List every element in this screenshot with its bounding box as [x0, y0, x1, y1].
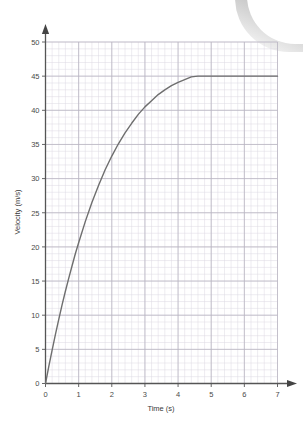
y-tick-label: 40 [31, 106, 39, 115]
y-axis-arrowhead [42, 24, 49, 34]
chart-page: 01234567 05101520253035404550 Time (s) V… [0, 0, 303, 431]
velocity-curve [46, 76, 278, 383]
axis-lines [42, 24, 297, 387]
y-tick-label: 5 [35, 345, 39, 354]
velocity-time-chart: 01234567 05101520253035404550 Time (s) V… [0, 0, 303, 431]
x-tick-label: 3 [143, 390, 147, 399]
y-tick-label: 0 [35, 379, 39, 388]
x-tick-label: 4 [176, 390, 180, 399]
grid-major [46, 42, 278, 384]
x-tick-label: 5 [209, 390, 213, 399]
chart-canvas: 01234567 05101520253035404550 Time (s) V… [0, 0, 303, 431]
y-tick-label: 15 [31, 277, 39, 286]
y-tick-label: 20 [31, 243, 39, 252]
y-tick-label: 30 [31, 174, 39, 183]
y-tick-label: 50 [31, 38, 39, 47]
y-tick-label: 25 [31, 209, 39, 218]
x-axis-title: Time (s) [147, 404, 175, 413]
x-tick-label: 7 [275, 390, 279, 399]
x-tick-label: 2 [110, 390, 114, 399]
x-tick-label: 6 [242, 390, 246, 399]
y-tick-labels: 05101520253035404550 [31, 38, 39, 389]
x-axis-arrowhead [287, 380, 297, 387]
x-tick-label: 1 [77, 390, 81, 399]
y-tick-label: 35 [31, 140, 39, 149]
y-axis-title: Velocity (m/s) [13, 189, 22, 235]
x-tick-labels: 01234567 [43, 390, 279, 399]
x-tick-label: 0 [43, 390, 47, 399]
y-tick-label: 45 [31, 72, 39, 81]
y-tick-label: 10 [31, 311, 39, 320]
